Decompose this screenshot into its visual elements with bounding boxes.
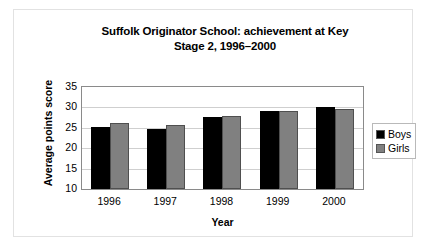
bar-group bbox=[194, 87, 250, 189]
bar-girls-1998[interactable] bbox=[222, 116, 241, 189]
legend-label: Girls bbox=[388, 142, 410, 154]
bar-girls-2000[interactable] bbox=[335, 109, 354, 189]
legend-item-girls[interactable]: Girls bbox=[376, 141, 411, 155]
x-tick-label-2000: 2000 bbox=[306, 195, 362, 207]
legend-swatch-boys-icon bbox=[376, 130, 385, 139]
legend-label: Boys bbox=[388, 128, 411, 140]
bar-boys-1997[interactable] bbox=[147, 129, 166, 189]
y-tick-label: 20 bbox=[57, 142, 77, 152]
legend-item-boys[interactable]: Boys bbox=[376, 127, 411, 141]
x-tick-label-1997: 1997 bbox=[137, 195, 193, 207]
legend-swatch-girls-icon bbox=[376, 144, 385, 153]
bar-girls-1997[interactable] bbox=[166, 125, 185, 189]
bar-boys-1999[interactable] bbox=[260, 111, 279, 189]
bar-boys-2000[interactable] bbox=[316, 107, 335, 189]
bar-group bbox=[251, 87, 307, 189]
x-axis-tick-labels: 19961997199819992000 bbox=[81, 195, 364, 209]
chart-legend: BoysGirls bbox=[372, 123, 416, 159]
x-tick-label-1999: 1999 bbox=[250, 195, 306, 207]
y-tick-label: 35 bbox=[57, 81, 77, 91]
x-axis-title: Year bbox=[81, 216, 364, 228]
y-axis-tick-labels: 101520253035 bbox=[55, 86, 77, 190]
chart-screenshot: Suffolk Originator School: achievement a… bbox=[0, 0, 426, 248]
bar-boys-1998[interactable] bbox=[203, 117, 222, 189]
chart-title-line-1: Suffolk Originator School: achievement a… bbox=[102, 25, 349, 37]
chart-title-line-2: Stage 2, 1996–2000 bbox=[174, 40, 276, 52]
x-tick-label-1996: 1996 bbox=[81, 195, 137, 207]
y-tick-label: 30 bbox=[57, 101, 77, 111]
bar-group bbox=[307, 87, 363, 189]
chart-frame: Suffolk Originator School: achievement a… bbox=[13, 9, 413, 237]
y-axis-title: Average points score bbox=[42, 73, 54, 193]
bar-group bbox=[82, 87, 138, 189]
bar-boys-1996[interactable] bbox=[91, 127, 110, 189]
x-tick-label-1998: 1998 bbox=[193, 195, 249, 207]
chart-title: Suffolk Originator School: achievement a… bbox=[60, 24, 390, 54]
y-tick-label: 10 bbox=[57, 183, 77, 193]
y-tick-label: 15 bbox=[57, 163, 77, 173]
bar-girls-1996[interactable] bbox=[110, 123, 129, 189]
bar-group bbox=[138, 87, 194, 189]
plot-area bbox=[81, 86, 364, 190]
y-tick-label: 25 bbox=[57, 122, 77, 132]
bar-girls-1999[interactable] bbox=[279, 111, 298, 189]
